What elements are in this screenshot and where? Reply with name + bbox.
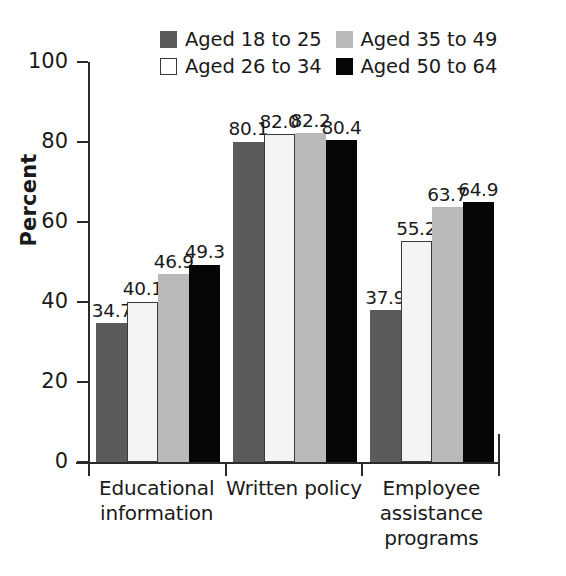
category-label: Written policy <box>225 476 362 551</box>
bar-value-label: 40.1 <box>123 280 163 299</box>
y-axis-tick-label: 0 <box>55 451 68 472</box>
category-label-line: assistance <box>363 501 500 526</box>
y-axis-tick-mark <box>77 61 88 63</box>
bar-slot: 49.3 <box>189 62 220 462</box>
bar-value-label: 64.9 <box>458 181 498 200</box>
category-label-line: information <box>88 501 225 526</box>
bar[interactable] <box>295 133 326 462</box>
bar[interactable] <box>127 302 158 462</box>
y-axis-title-text: Percent <box>17 153 41 246</box>
bar[interactable] <box>96 323 127 462</box>
y-axis-tick-mark <box>77 381 88 383</box>
bar[interactable] <box>463 202 494 462</box>
bar[interactable] <box>233 142 264 462</box>
category-tick <box>88 464 90 476</box>
category-label: Employeeassistanceprograms <box>363 476 500 551</box>
legend-entry: Aged 35 to 49 <box>336 26 498 53</box>
bar-value-label: 55.2 <box>396 220 436 239</box>
bar-group: 80.182.082.280.4 <box>227 62 364 462</box>
category-label-line: Written policy <box>225 476 362 501</box>
page-caption-cutoff <box>0 562 566 576</box>
category-label-line: Educational <box>88 476 225 501</box>
bar-value-label: 49.3 <box>185 243 225 262</box>
y-axis-tick-label: 100 <box>28 51 68 72</box>
bar[interactable] <box>158 274 189 462</box>
category-label-line: programs <box>363 526 500 551</box>
y-axis-tick-label: 80 <box>41 131 68 152</box>
bar[interactable] <box>189 265 220 462</box>
y-axis-tick-label: 60 <box>41 211 68 232</box>
bar-group: 37.955.263.764.9 <box>363 62 500 462</box>
bar-value-label: 34.7 <box>92 302 132 321</box>
bar[interactable] <box>370 310 401 462</box>
y-axis-tick-mark <box>77 141 88 143</box>
bar-groups: 34.740.146.949.380.182.082.280.437.955.2… <box>90 62 500 462</box>
y-axis-tick-mark <box>77 301 88 303</box>
y-axis-tick-mark <box>77 221 88 223</box>
bar-group: 34.740.146.949.3 <box>90 62 227 462</box>
bar[interactable] <box>264 134 295 462</box>
y-axis-tick-mark <box>77 461 88 463</box>
legend-entry: Aged 18 to 25 <box>160 26 322 53</box>
category-tick <box>225 464 227 476</box>
bar-slot: 55.2 <box>401 62 432 462</box>
bar-value-label: 37.9 <box>365 289 405 308</box>
legend-label: Aged 35 to 49 <box>361 30 498 50</box>
category-label: Educationalinformation <box>88 476 225 551</box>
y-axis-tick-label: 40 <box>41 291 68 312</box>
plot-area: 020406080100 34.740.146.949.380.182.082.… <box>88 62 500 462</box>
category-label-line: Employee <box>363 476 500 501</box>
category-tick <box>361 464 363 476</box>
legend-swatch-light-gray <box>336 31 353 48</box>
x-axis-category-labels: EducationalinformationWritten policyEmpl… <box>88 476 500 551</box>
bar-slot: 34.7 <box>96 62 127 462</box>
legend-swatch-dark-gray <box>160 31 177 48</box>
y-axis-tick-label: 20 <box>41 371 68 392</box>
bar-value-label: 80.4 <box>322 119 362 138</box>
bar[interactable] <box>432 207 463 462</box>
bar-slot: 64.9 <box>463 62 494 462</box>
bar-slot: 63.7 <box>432 62 463 462</box>
bar[interactable] <box>401 241 432 462</box>
bar[interactable] <box>326 140 357 462</box>
x-axis-line <box>76 462 500 464</box>
category-tick <box>498 464 500 476</box>
legend-label: Aged 18 to 25 <box>185 30 322 50</box>
bar-slot: 37.9 <box>370 62 401 462</box>
bar-slot: 80.4 <box>326 62 357 462</box>
